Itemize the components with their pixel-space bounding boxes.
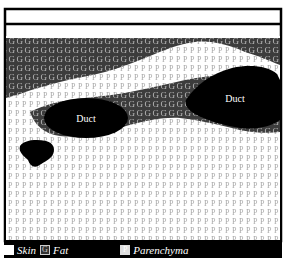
legend-item-fat: G Fat — [40, 244, 68, 256]
legend-label-skin: Skin — [17, 244, 36, 256]
legend-label-fat: Fat — [53, 244, 68, 256]
skin-swatch-icon — [4, 245, 14, 255]
parenchyma-swatch-icon: P — [120, 245, 130, 255]
duct-left-label: Duct — [76, 113, 96, 124]
legend-label-parenchyma: Parenchyma — [133, 244, 188, 256]
legend: Skin G Fat P Parenchyma — [4, 242, 282, 258]
legend-item-parenchyma: P Parenchyma — [120, 244, 188, 256]
legend-item-skin: Skin — [4, 244, 36, 256]
fat-swatch-icon: G — [40, 245, 50, 255]
tissue-diagram: G P Duct Duct — [0, 0, 286, 258]
duct-right-label: Duct — [225, 93, 245, 104]
